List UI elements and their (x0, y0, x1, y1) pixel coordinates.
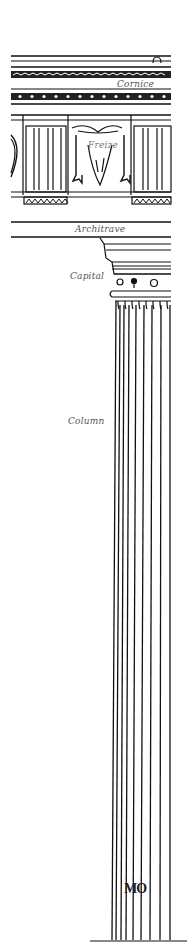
label-frieze: Freize (88, 140, 118, 150)
frieze-panel (11, 115, 171, 204)
monogram: MO (124, 881, 146, 897)
column-shaft (112, 301, 170, 940)
label-capital: Capital (70, 271, 104, 281)
capital (100, 238, 171, 309)
label-cornice: Cornice (117, 79, 154, 89)
label-architrave: Architrave (75, 224, 125, 234)
label-column: Column (68, 416, 105, 426)
